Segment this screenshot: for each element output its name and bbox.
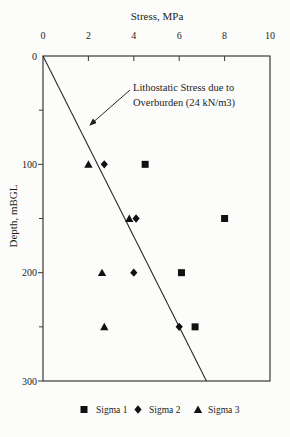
legend-marker-sigma-1 [81, 406, 88, 413]
data-point-sigma-2 [176, 323, 183, 331]
data-point-sigma-2 [101, 160, 108, 168]
y-tick-label: 100 [22, 159, 37, 170]
data-point-sigma-3 [125, 215, 133, 222]
x-axis-title: Stress, MPa [131, 10, 184, 22]
data-point-sigma-3 [100, 323, 108, 330]
annotation-text-line1: Lithostatic Stress due to [133, 82, 234, 93]
x-tick-label: 8 [222, 30, 227, 41]
y-tick-label: 0 [32, 51, 37, 62]
x-tick-label: 4 [131, 30, 136, 41]
legend-label-sigma-2: Sigma 2 [149, 405, 181, 415]
x-tick-label: 0 [41, 30, 46, 41]
data-point-sigma-1 [142, 161, 149, 168]
stress-depth-chart: Stress, MPa Depth, mBGL 0246810010020030… [0, 0, 290, 437]
data-point-sigma-3 [84, 160, 92, 167]
legend-marker-sigma-3 [194, 406, 202, 413]
data-point-sigma-2 [130, 268, 137, 276]
x-tick-label: 2 [86, 30, 91, 41]
annotation-text-line2: Overburden (24 kN/m3) [133, 97, 236, 109]
data-point-sigma-1 [221, 215, 228, 222]
data-point-sigma-1 [178, 269, 185, 276]
data-point-sigma-3 [98, 269, 106, 276]
x-tick-label: 6 [177, 30, 182, 41]
y-tick-label: 200 [22, 267, 37, 278]
y-tick-label: 300 [22, 376, 37, 387]
legend-label-sigma-3: Sigma 3 [208, 405, 240, 415]
data-point-sigma-1 [192, 323, 199, 330]
stress-depth-figure: Stress, MPa Depth, mBGL 0246810010020030… [0, 0, 290, 437]
y-axis-label: Depth, mBGL [7, 184, 19, 247]
annotation-arrow [90, 90, 130, 125]
legend-marker-sigma-2 [134, 405, 141, 413]
x-tick-label: 10 [265, 30, 275, 41]
legend: Sigma 1 Sigma 2 Sigma 3 [96, 405, 240, 415]
legend-label-sigma-1: Sigma 1 [96, 405, 128, 415]
data-point-sigma-2 [132, 214, 139, 222]
